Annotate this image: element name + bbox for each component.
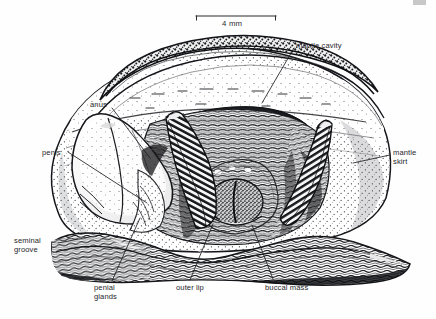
label-seminal-groove-line1: seminal <box>14 236 41 245</box>
label-buccal-mass: buccal mass <box>265 283 308 292</box>
anatomical-illustration <box>0 0 436 319</box>
label-mantle-skirt: mantleskirt <box>393 148 416 166</box>
label-penial-glands-line2: glands <box>94 292 117 301</box>
label-penial-glands-line1: penial <box>94 283 115 292</box>
label-penis: penis <box>42 148 61 157</box>
scale-bar-label: 4 mm <box>222 19 242 28</box>
label-mantle-skirt-line2: skirt <box>393 157 407 166</box>
label-mantle-skirt-line1: mantle <box>393 148 416 157</box>
label-penial-glands: penialglands <box>94 283 117 301</box>
label-seminal-groove-line2: groove <box>14 245 38 254</box>
label-seminal-groove: seminalgroove <box>14 236 41 254</box>
label-mantle-cavity: mantle cavity <box>296 41 342 50</box>
figure-container: 4 mm mantle cavity mantleskirt anus peni… <box>0 0 436 319</box>
label-outer-lip: outer lip <box>176 283 204 292</box>
label-anus: anus <box>90 100 107 109</box>
